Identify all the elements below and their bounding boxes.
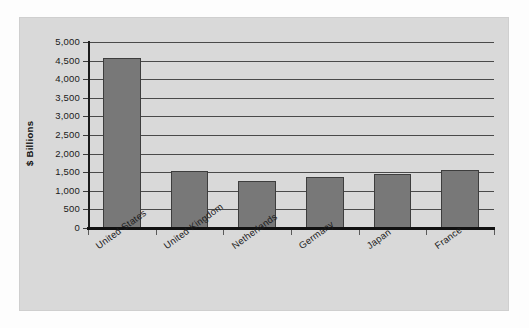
- y-axis-tick-label: 2,000: [38, 148, 80, 159]
- x-axis-tick: [359, 230, 360, 235]
- y-axis-tick-label: 1,500: [38, 166, 80, 177]
- y-axis-tick-label: 2,500: [38, 129, 80, 140]
- y-axis-tick-label: 1,000: [38, 185, 80, 196]
- gridline: [88, 98, 494, 99]
- y-axis-tick-label: 4,000: [38, 73, 80, 84]
- gridline: [88, 191, 494, 192]
- gridline: [88, 209, 494, 210]
- gridline: [88, 135, 494, 136]
- bar: [374, 174, 412, 228]
- gridline: [88, 116, 494, 117]
- x-axis-tick: [156, 230, 157, 235]
- x-axis-tick: [223, 230, 224, 235]
- bar: [103, 58, 141, 228]
- gridline: [88, 154, 494, 155]
- y-axis-tick-label: 0: [38, 222, 80, 233]
- y-axis-tick-label: 5,000: [38, 36, 80, 47]
- y-axis-title: $ Billions: [24, 108, 38, 178]
- gridline: [88, 42, 494, 43]
- gridline: [88, 61, 494, 62]
- x-axis-tick: [494, 230, 495, 235]
- x-axis-tick: [88, 230, 89, 235]
- bar: [441, 170, 479, 228]
- y-axis-tick-label: 500: [38, 203, 80, 214]
- gridline: [88, 79, 494, 80]
- chart-figure: $ Billions 05001,0001,5002,0002,5003,000…: [0, 0, 529, 328]
- x-axis-tick: [426, 230, 427, 235]
- gridline: [88, 172, 494, 173]
- plot-area: [88, 42, 494, 228]
- y-axis-line: [88, 41, 90, 229]
- y-axis-tick-label: 3,500: [38, 92, 80, 103]
- x-axis-tick: [291, 230, 292, 235]
- y-axis-tick-label: 4,500: [38, 55, 80, 66]
- y-axis-tick-label: 3,000: [38, 110, 80, 121]
